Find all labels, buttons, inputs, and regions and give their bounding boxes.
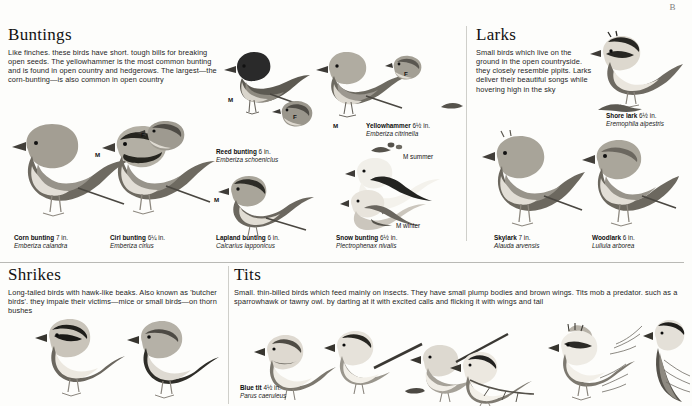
section-divider <box>0 262 684 263</box>
caption-lapland-bunting: Lapland bunting 6 in. Calcarius lapponic… <box>216 234 280 250</box>
caption-shore-lark: Shore lark 6½ in. Eremophila alpestris <box>606 112 664 128</box>
illustration-twig-right <box>662 356 692 404</box>
section-title-tits: Tits <box>234 266 680 285</box>
tag-reed-bunting-male: M <box>228 96 233 103</box>
illustration-perch-branch <box>466 376 536 402</box>
caption-size-reed-bunting: 6 in. <box>259 148 271 155</box>
caption-latin-yellowhammer: Emberiza citrinella <box>366 130 430 138</box>
column-divider-top <box>466 26 467 241</box>
caption-size-cirl-bunting: 6¼ in. <box>148 234 165 241</box>
caption-name-cirl-bunting: Cirl bunting <box>110 234 146 241</box>
section-body-shrikes: Long-tailed birds with hawk-like beaks. … <box>8 288 226 316</box>
section-body-tits: Small. thin-billed birds which feed main… <box>234 288 680 306</box>
caption-latin-woodlark: Lullula arborea <box>592 242 635 250</box>
caption-latin-cirl-bunting: Emberiza cirlus <box>110 242 165 250</box>
section-title-larks: Larks <box>476 26 596 45</box>
illustration-cirl-bunting-female <box>136 116 192 164</box>
illustration-shrike-left <box>30 314 126 404</box>
caption-name-corn-bunting: Corn bunting <box>14 234 54 241</box>
tag-cirl-bunting-female: F <box>141 131 145 138</box>
section-larks: Larks Small birds which live on the grou… <box>476 26 596 94</box>
caption-woodlark: Woodlark 6 in. Lullula arborea <box>592 234 635 250</box>
caption-latin-skylark: Alauda arvensis <box>494 242 539 250</box>
column-divider-bottom <box>228 266 229 404</box>
caption-snow-bunting: Snow bunting 6½ in. Plectrophenax nivali… <box>336 234 397 250</box>
caption-latin-snow-bunting: Plectrophenax nivalis <box>336 242 397 250</box>
illustration-flying-tit-speck <box>404 386 426 396</box>
illustration-skylark <box>476 130 586 238</box>
tag-reed-bunting-female: F <box>293 113 297 120</box>
section-body-larks: Small birds which live on the ground in … <box>476 48 596 94</box>
caption-latin-shore-lark: Eremophila alpestris <box>606 120 664 128</box>
section-shrikes: Shrikes Long-tailed birds with hawk-like… <box>8 266 226 315</box>
illustration-seed-marks <box>386 140 406 152</box>
caption-name-shore-lark: Shore lark <box>606 112 637 119</box>
illustration-shrike-right <box>122 316 220 404</box>
illustration-shore-lark <box>584 30 684 108</box>
tag-yellowhammer-female: F <box>404 70 408 77</box>
section-title-shrikes: Shrikes <box>8 266 226 285</box>
caption-latin-reed-bunting: Emberiza schoeniclus <box>216 156 278 164</box>
caption-yellowhammer: Yellowhammer 6½ in. Emberiza citrinella <box>366 122 430 138</box>
tag-snow-bunting-male-summer: M summer <box>403 153 433 160</box>
caption-name-reed-bunting: Reed bunting <box>216 148 257 155</box>
illustration-lapland-bunting <box>212 170 316 236</box>
caption-cirl-bunting: Cirl bunting 6¼ in. Emberiza cirlus <box>110 234 165 250</box>
caption-latin-lapland-bunting: Calcarius lapponicus <box>216 242 280 250</box>
caption-size-woodlark: 6 in. <box>623 234 635 241</box>
tag-lapland-bunting-male: M <box>214 196 219 203</box>
caption-name-woodlark: Woodlark <box>592 234 621 241</box>
caption-latin-blue-tit: Parus caeruleus <box>240 392 286 400</box>
caption-name-lapland-bunting: Lapland bunting <box>216 234 266 241</box>
section-body-buntings: Like finches. these birds have short. to… <box>8 48 223 85</box>
caption-size-blue-tit: 4½ in. <box>263 384 280 391</box>
caption-size-snow-bunting: 6½ in. <box>380 234 397 241</box>
caption-size-yellowhammer: 6½ in. <box>413 122 430 129</box>
caption-size-skylark: 7 in. <box>519 234 531 241</box>
illustration-woodlark <box>576 134 680 238</box>
caption-size-corn-bunting: 7 in. <box>56 234 68 241</box>
section-title-buntings: Buntings <box>8 26 223 45</box>
tag-snow-bunting-male-winter: M winter <box>396 222 420 229</box>
illustration-twig-left <box>596 324 648 398</box>
caption-name-blue-tit: Blue tit <box>240 384 262 391</box>
illustration-flying-speck-b <box>370 216 396 228</box>
section-tits: Tits Small. thin-billed birds which feed… <box>234 266 680 306</box>
illustration-flying-speck-c <box>440 100 464 112</box>
tag-yellowhammer-male: M <box>333 122 338 129</box>
page-corner-mark: B <box>669 2 676 12</box>
caption-skylark: Skylark 7 in. Alauda arvensis <box>494 234 539 250</box>
caption-name-skylark: Skylark <box>494 234 517 241</box>
caption-blue-tit: Blue tit 4½ in. Parus caeruleus <box>240 384 286 400</box>
tag-cirl-bunting-male: M <box>95 151 100 158</box>
section-buntings: Buntings Like finches. these birds have … <box>8 26 223 85</box>
caption-corn-bunting: Corn bunting 7 in. Emberiza calandra <box>14 234 68 250</box>
caption-latin-corn-bunting: Emberiza calandra <box>14 242 68 250</box>
caption-name-snow-bunting: Snow bunting <box>336 234 378 241</box>
caption-size-shore-lark: 6½ in. <box>639 112 656 119</box>
caption-reed-bunting: Reed bunting 6 in. Emberiza schoeniclus <box>216 148 278 164</box>
caption-name-yellowhammer: Yellowhammer <box>366 122 411 129</box>
caption-size-lapland-bunting: 6 in. <box>267 234 279 241</box>
